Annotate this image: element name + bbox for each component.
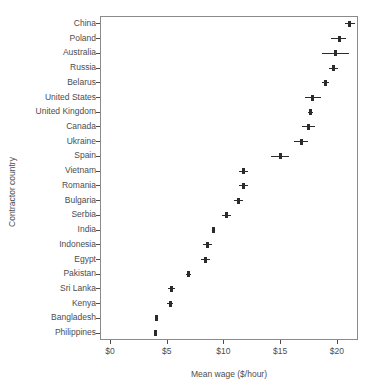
- y-axis-tick-label: Romania: [16, 181, 96, 190]
- y-axis-tick-label: Poland: [16, 34, 96, 43]
- y-axis-title: Contractor country: [0, 0, 16, 390]
- x-axis-tick-mark: [337, 340, 338, 344]
- data-point: [311, 95, 314, 101]
- y-axis-tick-label: Serbia: [16, 210, 96, 219]
- y-axis-tick-label: Vietnam: [16, 166, 96, 175]
- y-axis-tick-label: Egypt: [16, 255, 96, 264]
- data-point: [309, 109, 312, 115]
- y-axis-tick-label: United Kingdom: [16, 107, 96, 116]
- data-point: [170, 286, 173, 292]
- y-axis-tick-label: Spain: [16, 151, 96, 160]
- y-axis-tick-label: Canada: [16, 122, 96, 131]
- chart-container: Contractor country ChinaPolandAustraliaR…: [0, 0, 388, 390]
- data-point: [300, 139, 303, 145]
- y-axis-tick-labels: ChinaPolandAustraliaRussiaBelarusUnited …: [16, 0, 96, 390]
- data-point: [334, 50, 337, 56]
- plot-panel: [100, 16, 358, 340]
- data-point: [154, 330, 157, 336]
- y-axis-tick-label: Russia: [16, 63, 96, 72]
- x-axis-tick-label: $10: [203, 346, 243, 356]
- x-axis-tick-label: $5: [147, 346, 187, 356]
- x-axis-tick-label: $20: [317, 346, 357, 356]
- y-axis-tick-label: Indonesia: [16, 240, 96, 249]
- y-axis-tick-label: Bangladesh: [16, 313, 96, 322]
- data-point: [206, 242, 209, 248]
- data-point: [204, 257, 207, 263]
- data-point: [242, 168, 245, 174]
- y-axis-tick-label: Belarus: [16, 78, 96, 87]
- y-axis-tick-label: Philippines: [16, 328, 96, 337]
- y-axis-tick-label: Pakistan: [16, 269, 96, 278]
- x-axis-tick-mark: [223, 340, 224, 344]
- data-point: [348, 21, 351, 27]
- x-axis-tick-mark: [110, 340, 111, 344]
- y-axis-tick-label: China: [16, 19, 96, 28]
- data-point: [155, 315, 158, 321]
- x-axis-tick-label: $15: [260, 346, 300, 356]
- y-axis-tick-label: India: [16, 225, 96, 234]
- data-point: [212, 227, 215, 233]
- data-point: [307, 124, 310, 130]
- data-point: [279, 153, 282, 159]
- y-axis-tick-label: United States: [16, 93, 96, 102]
- data-point: [324, 80, 327, 86]
- data-point: [237, 198, 240, 204]
- y-axis-tick-label: Australia: [16, 48, 96, 57]
- y-axis-tick-label: Kenya: [16, 299, 96, 308]
- x-axis-tick-mark: [167, 340, 168, 344]
- x-axis-tick-mark: [280, 340, 281, 344]
- data-point: [187, 271, 190, 277]
- x-axis-title: Mean wage ($/hour): [100, 369, 358, 379]
- data-point: [332, 65, 335, 71]
- data-point: [242, 183, 245, 189]
- data-point: [225, 212, 228, 218]
- data-point: [169, 301, 172, 307]
- y-axis-tick-label: Bulgaria: [16, 196, 96, 205]
- data-point: [338, 36, 341, 42]
- x-axis-tick-label: $0: [90, 346, 130, 356]
- y-axis-tick-label: Sri Lanka: [16, 284, 96, 293]
- y-axis-tick-label: Ukraine: [16, 137, 96, 146]
